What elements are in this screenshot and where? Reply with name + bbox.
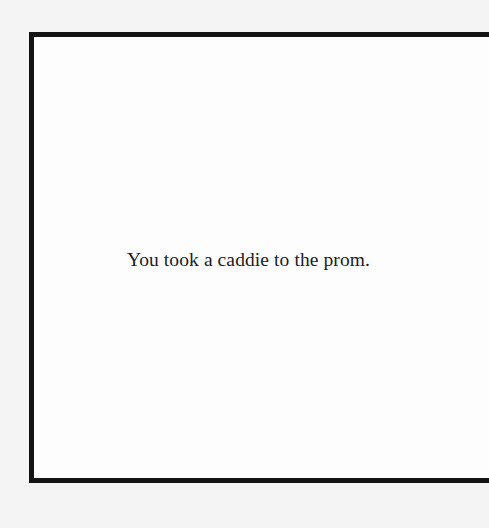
message-text: You took a caddie to the prom. — [127, 249, 370, 270]
message-text-container: You took a caddie to the prom. — [34, 249, 463, 271]
message-card: You took a caddie to the prom. — [29, 32, 489, 483]
